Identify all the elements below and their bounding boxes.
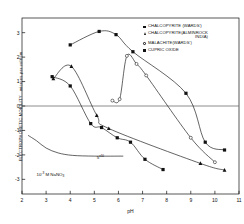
x-tick-label: 2: [21, 197, 24, 203]
marker-filled-square: [223, 148, 226, 151]
marker-filled-square: [143, 158, 146, 161]
y-tick-label: 3: [17, 30, 20, 36]
legend-item[interactable]: CHALCOPYRITE(ALMINROCK INDIA): [141, 31, 240, 39]
y-tick-label: -3: [15, 176, 20, 182]
legend-label-cont: INDIA): [148, 35, 208, 39]
marker-open-circle: [189, 136, 192, 139]
marker-open-circle: [135, 62, 138, 65]
figure-canvas: ELECTROPHORETIC MOBILITY microns per vol…: [0, 0, 244, 224]
legend: CHALCOPYRITE (WARDS') CHALCOPYRITE(ALMIN…: [141, 24, 240, 55]
marker-filled-triangle: [95, 113, 99, 117]
y-tick-label: 1: [17, 78, 20, 84]
marker-open-circle: [118, 98, 121, 101]
marker-filled-square: [129, 141, 132, 144]
marker-filled-square: [161, 168, 164, 171]
x-tick-label: 4: [69, 197, 72, 203]
y-tick-label: 2: [17, 54, 20, 60]
marker-filled-square: [184, 92, 187, 95]
y-tick-label: 0: [17, 103, 20, 109]
legend-item[interactable]: MALACHITE(WARDS'): [141, 41, 240, 46]
x-tick-label: 10: [212, 197, 218, 203]
marker-filled-square: [69, 84, 72, 87]
marker-filled-triangle: [70, 64, 74, 68]
marker-open-circle: [213, 161, 216, 164]
marker-open-circle: [111, 99, 114, 102]
open-circle-icon: [141, 41, 148, 46]
marker-filled-square: [204, 141, 207, 144]
legend-label: CHALCOPYRITE (WARDS'): [148, 24, 202, 28]
filled-square-icon: [141, 24, 148, 29]
series-filled-square: [51, 75, 165, 171]
legend-label: CHALCOPYRITE(ALMINROCK INDIA): [148, 31, 208, 39]
series-none: [28, 135, 123, 156]
marker-filled-square: [116, 136, 119, 139]
marker-filled-square: [98, 30, 101, 33]
marker-filled-square: [89, 122, 92, 125]
legend-label: MALACHITE(WARDS'): [148, 41, 192, 45]
curve-annotation: 5x10: [97, 154, 105, 160]
marker-filled-square: [69, 43, 72, 46]
x-tick-label: 11: [236, 197, 241, 203]
legend-item[interactable]: CUPRIC OXIDE: [141, 48, 240, 53]
y-tick-label: -1: [15, 127, 20, 133]
x-tick-label: 7: [141, 197, 144, 203]
marker-filled-triangle: [107, 126, 111, 130]
marker-filled-square: [114, 33, 117, 36]
x-axis-label: pH: [127, 208, 134, 214]
marker-open-circle: [145, 74, 148, 77]
legend-label: CUPRIC OXIDE: [148, 48, 179, 52]
x-tick-label: 5: [93, 197, 96, 203]
x-tick-label: 9: [189, 197, 192, 203]
annotation-layer: 10-3 M NaNO35x10: [36, 154, 104, 178]
electrolyte-annotation: 10-3 M NaNO3: [36, 171, 64, 178]
marker-open-circle: [125, 54, 128, 57]
filled-square-icon: [141, 48, 148, 53]
y-tick-label: -2: [15, 152, 20, 158]
legend-item[interactable]: CHALCOPYRITE (WARDS'): [141, 24, 240, 29]
filled-triangle-icon: [141, 31, 148, 36]
marker-filled-square: [131, 50, 134, 53]
series-open-circle: [111, 54, 216, 164]
x-tick-label: 3: [45, 197, 48, 203]
x-tick-label: 8: [165, 197, 168, 203]
marker-filled-square: [100, 126, 103, 129]
x-tick-label: 6: [117, 197, 120, 203]
